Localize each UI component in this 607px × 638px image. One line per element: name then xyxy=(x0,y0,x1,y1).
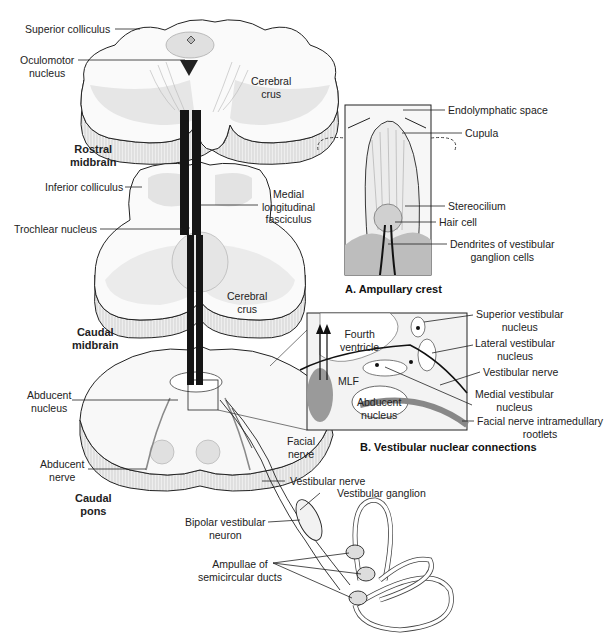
label-vestibular-nerve: Vestibular nerve xyxy=(290,475,365,488)
label-caudal-pons: Caudal pons xyxy=(75,492,112,518)
label-cupula: Cupula xyxy=(465,127,498,140)
label-oculomotor-nucleus: Oculomotor nucleus xyxy=(20,54,74,79)
label-vestibular-ganglion: Vestibular ganglion xyxy=(337,487,426,500)
label-panel-b-abducent-nucleus: Abducent nucleus xyxy=(357,396,401,421)
label-medial-vestibular-nucleus: Medial vestibular nucleus xyxy=(475,388,554,413)
label-endolymphatic-space: Endolymphatic space xyxy=(448,104,548,117)
label-medial-longitudinal-fasciculus: Medial longitudinal fasciculus xyxy=(262,188,315,226)
panel-a-ampullary-crest xyxy=(318,105,456,275)
label-trochlear-nucleus: Trochlear nucleus xyxy=(14,223,97,236)
label-facial-nerve: Facial nerve xyxy=(287,435,315,460)
label-abducent-nerve: Abducent nerve xyxy=(40,458,84,483)
label-rostral-midbrain: Rostral midbrain xyxy=(70,143,116,169)
label-mlf: MLF xyxy=(338,375,359,388)
label-superior-colliculus: Superior colliculus xyxy=(25,23,110,36)
label-superior-vestibular-nucleus: Superior vestibular nucleus xyxy=(476,308,564,333)
label-dendrites-vestibular-ganglion: Dendrites of vestibular ganglion cells xyxy=(450,238,554,263)
caption-panel-a: A. Ampullary crest xyxy=(345,283,442,295)
label-abducent-nucleus: Abducent nucleus xyxy=(27,389,71,414)
label-facial-nerve-rootlets: Facial nerve intramedullary rootlets xyxy=(477,415,603,440)
label-inferior-colliculus: Inferior colliculus xyxy=(45,181,123,194)
label-caudal-midbrain: Caudal midbrain xyxy=(72,326,118,352)
label-hair-cell: Hair cell xyxy=(439,216,477,229)
label-panel-b-vestibular-nerve: Vestibular nerve xyxy=(483,366,558,379)
caption-panel-b: B. Vestibular nuclear connections xyxy=(360,441,537,453)
label-ampullae-semicircular-ducts: Ampullae of semicircular ducts xyxy=(198,558,282,583)
rostral-midbrain-section xyxy=(81,20,339,165)
label-cerebral-crus-rostral: Cerebral crus xyxy=(251,75,291,100)
label-bipolar-vestibular-neuron: Bipolar vestibular neuron xyxy=(185,516,266,541)
label-cerebral-crus-caudal: Cerebral crus xyxy=(227,290,267,315)
label-lateral-vestibular-nucleus: Lateral vestibular nucleus xyxy=(475,337,555,362)
label-stereocilium: Stereocilium xyxy=(448,200,506,213)
label-fourth-ventricle: Fourth ventricle xyxy=(340,328,379,353)
